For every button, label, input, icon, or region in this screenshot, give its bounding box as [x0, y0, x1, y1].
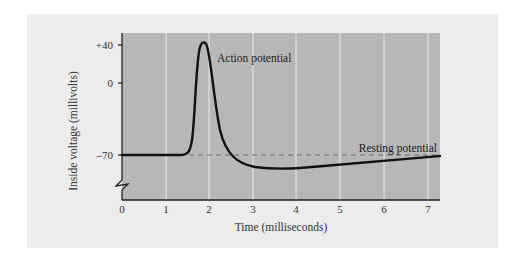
x-tick-label: 1: [163, 203, 169, 215]
x-tick-label: 2: [206, 203, 212, 215]
y-tick-label: 0: [108, 77, 114, 89]
action-potential-chart: +40 0 –70 0 1 2 3 4 5 6 7 Time (millisec…: [0, 0, 525, 268]
y-tick-label: +40: [96, 39, 114, 51]
x-tick-label: 3: [250, 203, 256, 215]
y-axis-title: Inside voltage (millivolts): [67, 71, 80, 191]
x-tick-label: 4: [293, 203, 299, 215]
x-tick-label: 7: [425, 203, 431, 215]
resting-potential-label: Resting potential: [359, 142, 437, 155]
x-axis-title: Time (milliseconds): [235, 221, 328, 234]
action-potential-label: Action potential: [217, 52, 291, 65]
y-tick-label: –70: [96, 149, 114, 161]
x-tick-label: 6: [381, 203, 387, 215]
x-tick-label: 5: [337, 203, 343, 215]
x-tick-label: 0: [119, 203, 125, 215]
